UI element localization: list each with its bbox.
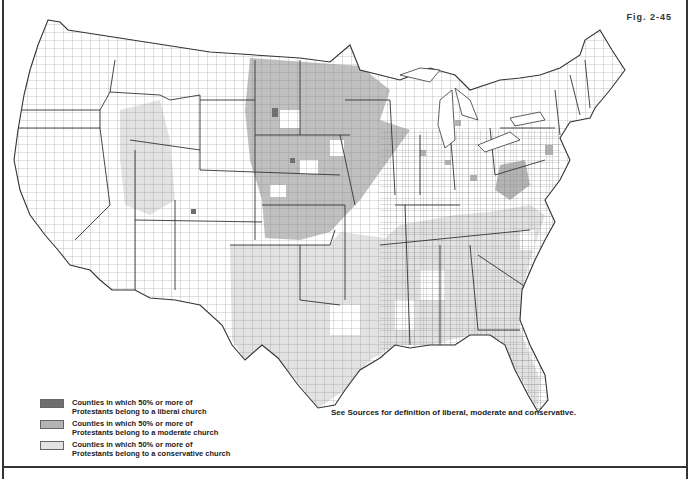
legend-item-conservative: Counties in which 50% or more of Protest… xyxy=(40,440,230,458)
legend-line1: Counties in which 50% or more of xyxy=(72,440,230,449)
legend-item-moderate: Counties in which 50% or more of Protest… xyxy=(40,419,230,437)
us-county-map xyxy=(0,0,690,430)
legend-line2: Protestants belong to a moderate church xyxy=(72,428,218,437)
lower-panel xyxy=(2,468,688,479)
conservative-swatch xyxy=(40,441,64,450)
legend-line2: Protestants belong to a conservative chu… xyxy=(72,449,230,458)
legend-item-liberal: Counties in which 50% or more of Protest… xyxy=(40,398,230,416)
sources-caption: See Sources for definition of liberal, m… xyxy=(331,408,576,417)
map-legend: Counties in which 50% or more of Protest… xyxy=(40,398,230,461)
legend-line1: Counties in which 50% or more of xyxy=(72,419,218,428)
legend-line2: Protestants belong to a liberal church xyxy=(72,407,207,416)
moderate-swatch xyxy=(40,420,64,429)
legend-line1: Counties in which 50% or more of xyxy=(72,398,207,407)
liberal-swatch xyxy=(40,399,64,408)
